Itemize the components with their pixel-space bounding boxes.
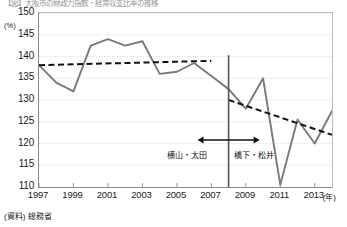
plot-canvas: 横山・太田橋下・松井 — [39, 13, 332, 187]
x-axis-tick-label: 2001 — [97, 190, 117, 200]
x-axis-labels: (年) 199719992001200320052007200920112013 — [38, 190, 333, 206]
y-axis-tick-label: 125 — [0, 116, 34, 126]
chart-title-cropped: 【図】大阪市の財政力指数・経常収支比率の推移 — [4, 0, 304, 7]
y-axis-tick-label: 115 — [0, 159, 34, 169]
y-axis-tick-label: 150 — [0, 7, 34, 17]
x-axis-tick-label: 1997 — [28, 190, 48, 200]
x-axis-tick-label: 2007 — [200, 190, 220, 200]
plot-area: 横山・太田橋下・松井 — [38, 12, 333, 188]
source-note: (資料) 総務省 — [4, 210, 52, 221]
x-axis-unit-label: (年) — [323, 191, 336, 202]
y-axis-tick-label: 135 — [0, 72, 34, 82]
chart-page: 【図】大阪市の財政力指数・経常収支比率の推移 (%) 1501451401351… — [0, 0, 347, 227]
trend-line-right — [229, 100, 332, 135]
era-label-right: 橋下・松井 — [234, 151, 274, 160]
arrow-head-right — [254, 137, 260, 144]
y-axis-tick-label: 145 — [0, 29, 34, 39]
x-axis-tick-label: 1999 — [62, 190, 82, 200]
y-axis-tick-label: 130 — [0, 94, 34, 104]
era-label-left: 横山・太田 — [167, 151, 207, 160]
x-axis-tick-label: 2009 — [235, 190, 255, 200]
x-axis-tick-label: 2003 — [131, 190, 151, 200]
x-axis-tick-label: 2013 — [304, 190, 324, 200]
y-axis-labels: 150145140135130125120115110 — [0, 12, 34, 188]
chart-svg — [39, 13, 332, 187]
arrow-head-left — [198, 137, 204, 144]
x-axis-tick-label: 2011 — [269, 190, 289, 200]
y-axis-tick-label: 140 — [0, 51, 34, 61]
y-axis-tick-label: 120 — [0, 138, 34, 148]
x-axis-tick-label: 2005 — [166, 190, 186, 200]
trend-line-left — [39, 61, 211, 65]
